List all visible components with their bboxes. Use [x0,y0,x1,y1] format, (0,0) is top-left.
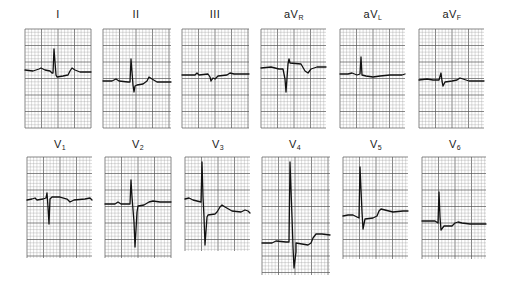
lead-label-v4: V4 [265,138,325,151]
ecg-grid [422,157,486,259]
lead-label-subscript: 2 [140,144,144,151]
lead-label-text: V [132,138,140,150]
lead-label-subscript: 6 [457,144,461,151]
ecg-grid [261,29,326,128]
ecg-trace [262,162,330,268]
lead-label-v1: V1 [30,138,90,151]
lead-label-text: aV [284,8,298,20]
lead-label-v5: V5 [346,138,406,151]
ecg-strip-v1 [27,157,92,258]
ecg-grid [103,29,171,128]
lead-label-avf: aVF [422,8,482,21]
lead-label-subscript: 4 [297,144,301,151]
ecg-strip-ii [103,29,171,128]
lead-label-v6: V6 [425,138,485,151]
lead-label-text: V [289,138,297,150]
lead-label-text: V [370,138,378,150]
ecg-grid [419,29,484,128]
lead-label-subscript: 3 [220,144,224,151]
lead-label-i: I [28,8,88,20]
ecg-strip-v2 [105,157,171,258]
ecg-strip-iii [182,29,249,128]
ecg-trace [422,192,486,230]
ecg-grid [185,157,250,251]
ecg-grid [262,157,330,275]
ecg-trace [103,59,171,92]
ecg-strip-v5 [343,157,408,259]
ecg-strip-avf [419,29,484,128]
ecg-grid [340,29,405,128]
lead-label-avl: aVL [343,8,403,21]
ecg-strip-i [25,29,91,128]
ecg-grid [343,157,408,259]
lead-label-text: V [449,138,457,150]
ecg-grid [25,29,91,128]
lead-label-subscript: L [378,14,382,21]
lead-label-subscript: R [298,14,304,21]
lead-label-text: III [210,8,221,20]
ecg-grid [27,157,92,258]
lead-label-avr: aVR [264,8,324,21]
lead-label-text: V [54,138,62,150]
lead-label-subscript: 1 [62,144,66,151]
lead-label-text: aV [364,8,378,20]
lead-label-text: aV [442,8,456,20]
ecg-strip-v3 [185,157,250,251]
lead-label-v3: V3 [188,138,248,151]
lead-label-subscript: 5 [378,144,382,151]
lead-label-text: V [212,138,220,150]
ecg-strip-v6 [422,157,486,259]
lead-label-text: I [56,8,60,20]
ecg-strip-avl [340,29,405,128]
lead-label-ii: II [106,8,166,20]
lead-label-subscript: F [457,14,462,21]
lead-label-v2: V2 [108,138,168,151]
lead-label-text: II [132,8,139,20]
ecg-strip-avr [261,29,326,128]
ecg-strip-v4 [262,157,330,275]
lead-label-iii: III [185,8,245,20]
